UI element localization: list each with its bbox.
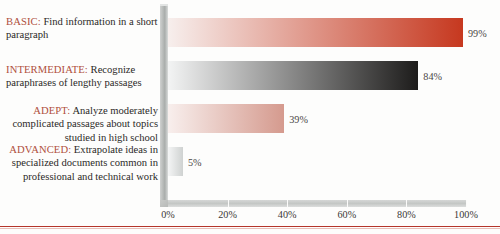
tick-label-40: 40% bbox=[267, 209, 307, 220]
reading-level-chart-figure: BASIC: Find information in a short parag… bbox=[0, 0, 500, 234]
footer-rule bbox=[0, 226, 500, 227]
axis-tick-20 bbox=[228, 200, 229, 207]
level-description-adept: ADEPT: Analyze moderately complicated pa… bbox=[6, 104, 158, 144]
level-name-adept: ADEPT: bbox=[33, 105, 70, 116]
level-description-advanced: ADVANCED: Extrapolate ideas in specializ… bbox=[6, 143, 158, 183]
bar-basic bbox=[168, 18, 463, 47]
tick-label-20: 20% bbox=[208, 209, 248, 220]
axis-tick-100 bbox=[466, 200, 467, 207]
level-name-basic: BASIC: bbox=[6, 16, 41, 27]
footer-rule-shadow bbox=[0, 228, 500, 229]
bar-advanced bbox=[168, 147, 183, 176]
value-axis bbox=[168, 200, 466, 207]
tick-label-0: 0% bbox=[148, 209, 188, 220]
level-name-advanced: ADVANCED: bbox=[9, 144, 71, 155]
bar-value-label-basic: 99% bbox=[468, 29, 487, 39]
level-description-intermediate: INTERMEDIATE: Recognize paraphrases of l… bbox=[6, 63, 158, 90]
tick-label-80: 80% bbox=[386, 209, 426, 220]
plot-area: 99%84%39%5% 0%20%40%60%80%100% bbox=[160, 0, 500, 234]
bar-value-label-advanced: 5% bbox=[188, 158, 202, 168]
level-description-column: BASIC: Find information in a short parag… bbox=[6, 0, 158, 205]
axis-tick-80 bbox=[406, 200, 407, 207]
axis-tick-60 bbox=[347, 200, 348, 207]
bar-intermediate bbox=[168, 61, 418, 90]
bar-value-label-adept: 39% bbox=[289, 115, 308, 125]
level-description-basic: BASIC: Find information in a short parag… bbox=[6, 15, 158, 42]
level-name-intermediate: INTERMEDIATE: bbox=[6, 64, 88, 75]
tick-label-100: 100% bbox=[446, 209, 486, 220]
category-axis bbox=[160, 6, 168, 206]
axis-tick-40 bbox=[287, 200, 288, 207]
bar-value-label-intermediate: 84% bbox=[423, 72, 442, 82]
tick-label-60: 60% bbox=[327, 209, 367, 220]
bar-adept bbox=[168, 104, 284, 133]
